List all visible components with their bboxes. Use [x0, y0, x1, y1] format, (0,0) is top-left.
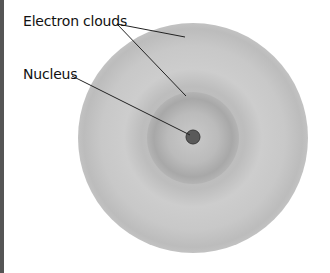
atom-diagram [0, 0, 330, 273]
nucleus-icon [186, 130, 200, 144]
electron-clouds-label: Electron clouds [23, 13, 127, 29]
nucleus-label: Nucleus [23, 66, 77, 82]
